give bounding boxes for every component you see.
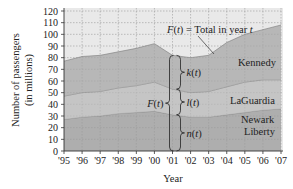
y-axis-title-line1: Number of passengers bbox=[10, 33, 21, 127]
brace-label-n: n(t) bbox=[187, 128, 203, 140]
x-tick-label: '07 bbox=[275, 155, 287, 166]
x-tick-label: '03 bbox=[203, 155, 215, 166]
x-tick-label: '02 bbox=[185, 155, 197, 166]
y-tick-label: 90 bbox=[48, 41, 58, 52]
y-tick-labels: 0102030405060708090100110120 bbox=[43, 6, 58, 157]
brace-label-total: F(t) bbox=[146, 98, 164, 110]
x-axis-title: Year bbox=[163, 173, 183, 184]
x-tick-label: '05 bbox=[239, 155, 251, 166]
x-tick-label: '96 bbox=[76, 155, 88, 166]
series-label-newark-2: Liberty bbox=[244, 126, 276, 137]
y-tick-label: 40 bbox=[48, 99, 58, 110]
y-tick-label: 120 bbox=[43, 6, 58, 17]
x-tick-label: '99 bbox=[130, 155, 142, 166]
y-tick-label: 10 bbox=[48, 134, 58, 145]
x-tick-label: '95 bbox=[58, 155, 70, 166]
y-tick-label: 20 bbox=[48, 122, 58, 133]
series-label-kennedy: Kennedy bbox=[238, 57, 277, 68]
brace-label-l: l(t) bbox=[187, 97, 200, 109]
y-tick-label: 70 bbox=[48, 64, 58, 75]
x-tick-label: '00 bbox=[149, 155, 161, 166]
brace-label-k: k(t) bbox=[187, 67, 202, 79]
x-tick-label: '06 bbox=[257, 155, 269, 166]
y-tick-label: 60 bbox=[48, 76, 58, 87]
x-tick-label: '01 bbox=[167, 155, 179, 166]
x-tick-label: '98 bbox=[112, 155, 124, 166]
y-tick-label: 100 bbox=[43, 29, 58, 40]
total-annotation: F(t) = Total in year t bbox=[166, 24, 254, 36]
series-label-laguardia: LaGuardia bbox=[230, 95, 275, 106]
y-tick-label: 110 bbox=[43, 17, 58, 28]
x-tick-label: '04 bbox=[221, 155, 233, 166]
series-label-newark-1: Newark bbox=[241, 114, 275, 125]
y-tick-label: 80 bbox=[48, 52, 58, 63]
y-tick-label: 50 bbox=[48, 87, 58, 98]
x-tick-labels: '95'96'97'98'99'00'01'02'03'04'05'06'07 bbox=[58, 155, 287, 166]
y-axis-title-line2: (in millions) bbox=[23, 53, 35, 106]
y-tick-label: 30 bbox=[48, 111, 58, 122]
x-tick-label: '97 bbox=[94, 155, 106, 166]
stacked-area-chart: 0102030405060708090100110120 '95'96'97'9… bbox=[0, 0, 293, 189]
